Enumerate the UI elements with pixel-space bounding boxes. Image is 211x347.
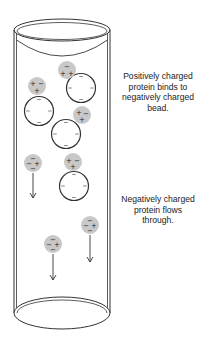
minus-charge-icon: − <box>30 165 36 173</box>
negative-protein: −−+− <box>81 216 99 262</box>
negative-protein: −−+− <box>24 154 42 198</box>
liquid-surface <box>17 40 108 56</box>
plus-charge-icon: + <box>60 70 66 78</box>
caption-line: Positively charged <box>108 71 208 82</box>
bead <box>25 97 54 126</box>
plus-charge-icon: + <box>68 70 74 78</box>
plus-charge-icon: + <box>79 116 85 124</box>
caption-line: protein flows <box>108 205 208 216</box>
minus-charge-icon: − <box>87 227 93 235</box>
bead <box>60 172 89 201</box>
bead <box>52 120 81 149</box>
minus-charge-icon: − <box>50 246 56 254</box>
positive-protein: −++ <box>58 61 76 79</box>
flow-through-caption: Negatively charged protein flows through… <box>108 194 208 226</box>
negative-protein: −−+− <box>44 235 62 280</box>
column-bottom <box>14 297 110 329</box>
caption-line: Negatively charged <box>108 194 208 205</box>
positive-protein: +−+ <box>28 77 46 95</box>
column-top-rim-inner <box>17 23 107 40</box>
bound-protein-caption: Positively charged protein binds to nega… <box>108 71 208 113</box>
positive-protein: +−+ <box>73 106 91 124</box>
plus-charge-icon: + <box>70 163 76 171</box>
caption-line: bead. <box>108 103 208 114</box>
negatively-charged-proteins: −−+−−−+−−−+− <box>24 154 99 280</box>
ion-exchange-column-diagram: −+++−++−++−+ −−+−−−+−−−+− <box>0 0 211 347</box>
caption-line: negatively charged <box>108 92 208 103</box>
plus-charge-icon: + <box>34 87 40 95</box>
positive-protein: +−+ <box>64 153 82 171</box>
caption-line: protein binds to <box>108 82 208 93</box>
caption-line: through. <box>108 215 208 226</box>
